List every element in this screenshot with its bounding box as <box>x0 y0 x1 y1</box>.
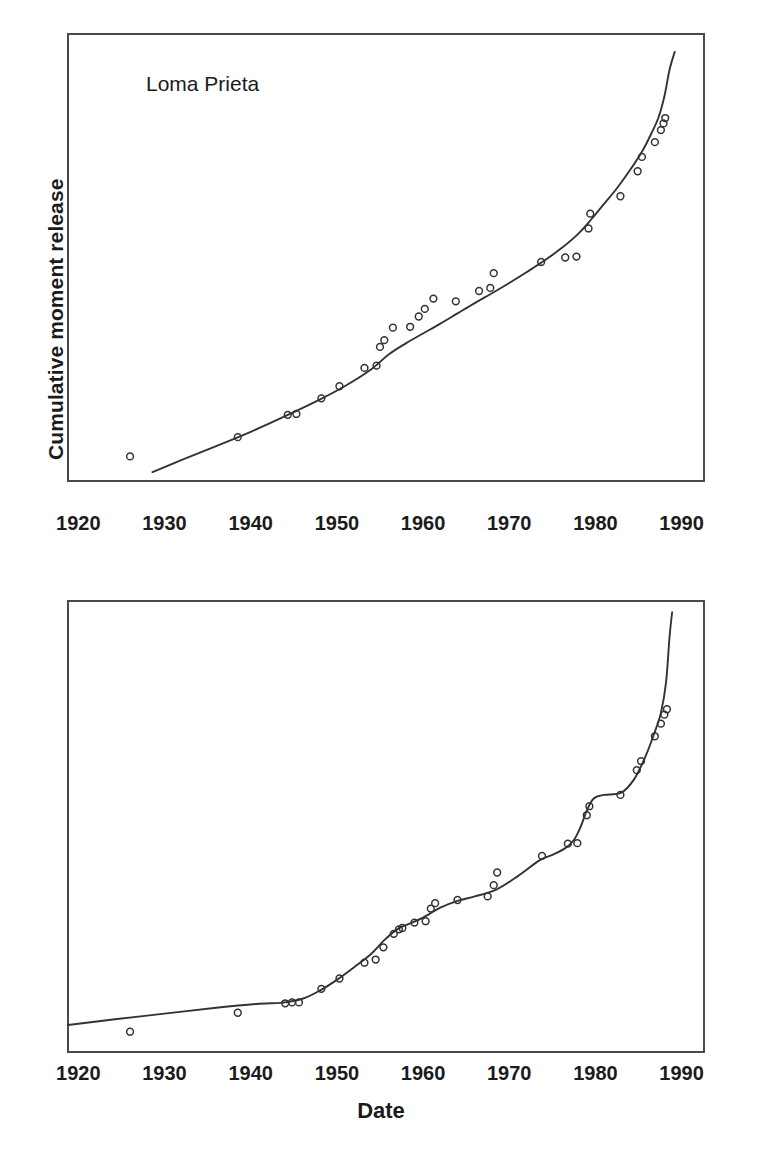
x-tick-label: 1990 <box>659 1062 704 1085</box>
x-tick-label: 1980 <box>573 1062 618 1085</box>
data-point <box>562 254 569 261</box>
data-point <box>585 225 592 232</box>
data-point <box>415 313 422 320</box>
data-point <box>487 285 494 292</box>
x-tick-label: 1970 <box>487 1062 532 1085</box>
data-point <box>476 288 483 295</box>
data-point <box>573 253 580 260</box>
data-point <box>430 295 437 302</box>
data-point <box>574 840 581 847</box>
x-tick-label: 1950 <box>315 512 360 535</box>
x-tick-label: 1930 <box>142 512 187 535</box>
plot-frame-bottom <box>68 601 704 1052</box>
data-point <box>380 944 387 951</box>
data-points-top <box>127 115 669 460</box>
data-point <box>372 956 379 963</box>
model-curve-bottom <box>68 612 672 1025</box>
x-tick-label: 1960 <box>401 512 446 535</box>
chart-panel-top: Cumulative moment release Loma Prieta 19… <box>0 0 762 560</box>
data-point <box>658 127 665 134</box>
data-point <box>494 869 501 876</box>
data-point <box>617 193 624 200</box>
data-point <box>452 298 459 305</box>
data-point <box>389 324 396 331</box>
data-point <box>407 323 414 330</box>
x-axis-label: Date <box>0 1098 762 1124</box>
x-tick-label: 1920 <box>56 512 101 535</box>
panel-annotation-loma-prieta: Loma Prieta <box>146 72 259 96</box>
data-point <box>422 918 429 925</box>
data-point <box>587 210 594 217</box>
x-tick-label: 1990 <box>659 512 704 535</box>
plot-area-top <box>0 0 762 512</box>
data-point <box>490 882 497 889</box>
data-point <box>127 1028 134 1035</box>
figure-root: Cumulative moment release Loma Prieta 19… <box>0 0 762 1156</box>
data-point <box>234 1009 241 1016</box>
data-point <box>634 168 641 175</box>
data-point <box>127 453 134 460</box>
data-point <box>651 139 658 146</box>
data-point <box>484 893 491 900</box>
x-tick-label: 1950 <box>315 1062 360 1085</box>
data-point <box>421 306 428 313</box>
x-tick-label: 1970 <box>487 512 532 535</box>
model-curve-top <box>152 52 674 472</box>
data-point <box>490 270 497 277</box>
plot-frame-top <box>68 34 704 481</box>
x-axis-ticks-bottom: 19201930194019501960197019801990 <box>0 1062 762 1092</box>
data-point <box>361 365 368 372</box>
x-tick-label: 1980 <box>573 512 618 535</box>
data-point <box>381 337 388 344</box>
data-points-bottom <box>127 706 671 1035</box>
x-tick-label: 1930 <box>142 1062 187 1085</box>
data-point <box>432 900 439 907</box>
x-tick-label: 1920 <box>56 1062 101 1085</box>
data-point <box>377 344 384 351</box>
x-tick-label: 1940 <box>228 512 273 535</box>
x-axis-ticks-top: 19201930194019501960197019801990 <box>0 512 762 542</box>
x-tick-label: 1960 <box>401 1062 446 1085</box>
x-tick-label: 1940 <box>228 1062 273 1085</box>
